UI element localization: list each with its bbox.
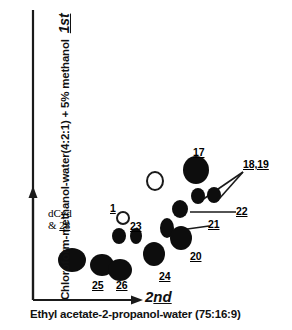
y-axis-label-text: Chloroform-methanol-water(4:2:1) + 5% me…	[59, 39, 71, 300]
spot-17[interactable]	[183, 156, 209, 184]
x-axis-arrow	[131, 296, 143, 305]
spot-18[interactable]	[191, 188, 205, 204]
y-axis-arrow	[29, 186, 38, 300]
label-23: 23	[130, 220, 141, 232]
label-21: 21	[208, 218, 219, 230]
label-24: 24	[159, 270, 170, 282]
label-dcyd-28: dCyd & 28	[48, 207, 72, 231]
label-26: 26	[116, 279, 127, 291]
spot-19[interactable]	[207, 187, 221, 203]
spot-20[interactable]	[170, 226, 192, 250]
label-20: 20	[190, 250, 201, 262]
label-18-19: 18,19	[243, 158, 269, 170]
label-dcyd-line1: dCyd	[48, 207, 72, 219]
spot-22[interactable]	[172, 200, 188, 218]
label-28: 28	[59, 219, 70, 231]
spot-23a[interactable]	[112, 228, 126, 244]
figure-canvas: Chloroform-methanol-water(4:2:1) + 5% me…	[0, 0, 292, 330]
x-axis-label: Ethyl acetate-2-propanol-water (75:16:9)	[30, 308, 292, 320]
label-17: 17	[193, 146, 204, 158]
spot-group	[58, 156, 221, 281]
label-22: 22	[236, 205, 247, 217]
label-25: 25	[92, 279, 103, 291]
spot-open-upper[interactable]	[147, 172, 163, 190]
spot-26[interactable]	[108, 259, 132, 281]
y-axis-ordinal: 1st	[56, 14, 72, 40]
x-axis-ordinal-suffix: nd	[153, 288, 171, 305]
spot-24[interactable]	[143, 242, 165, 266]
label-dcyd-line2: & 28	[48, 219, 72, 231]
y-axis-label: Chloroform-methanol-water(4:2:1) + 5% me…	[56, 0, 72, 300]
x-axis-ordinal: 2nd	[145, 288, 172, 305]
axis-lines	[33, 10, 140, 300]
spot-open-1[interactable]	[117, 212, 129, 224]
label-1: 1	[110, 202, 116, 214]
